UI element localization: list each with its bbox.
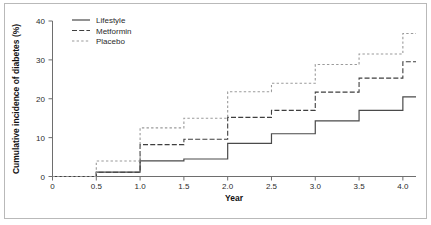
y-axis-tick-labels: 010203040 xyxy=(36,17,45,182)
legend-label-metformin: Metformin xyxy=(96,27,132,36)
x-tick-label: 2.5 xyxy=(266,182,278,191)
chart-legend: LifestyleMetforminPlacebo xyxy=(72,16,132,46)
x-tick-label: 3.0 xyxy=(310,182,322,191)
x-tick-label: 0 xyxy=(50,182,55,191)
y-axis-ticks xyxy=(49,21,53,177)
x-tick-label: 1.0 xyxy=(135,182,147,191)
x-axis-ticks xyxy=(53,177,403,181)
figure-container: 010203040 00.51.01.52.02.53.03.54.0 Year… xyxy=(0,0,431,225)
y-tick-label: 20 xyxy=(36,95,45,104)
y-axis-title: Cumulative incidence of diabetes (%) xyxy=(11,24,21,174)
x-tick-label: 1.5 xyxy=(178,182,190,191)
x-tick-label: 2.0 xyxy=(222,182,234,191)
x-tick-label: 4.0 xyxy=(397,182,409,191)
x-axis-title: Year xyxy=(225,193,244,203)
y-tick-label: 30 xyxy=(36,56,45,65)
y-tick-label: 40 xyxy=(36,17,45,26)
x-axis-tick-labels: 00.51.01.52.02.53.03.54.0 xyxy=(50,182,409,191)
x-tick-label: 0.5 xyxy=(91,182,103,191)
series-line-lifestyle xyxy=(53,97,417,177)
y-tick-label: 0 xyxy=(41,173,46,182)
y-tick-label: 10 xyxy=(36,134,45,143)
legend-label-lifestyle: Lifestyle xyxy=(96,16,126,25)
x-tick-label: 3.5 xyxy=(354,182,366,191)
series-line-placebo xyxy=(53,33,417,176)
series-line-metformin xyxy=(53,62,417,177)
series-group xyxy=(53,33,417,176)
legend-label-placebo: Placebo xyxy=(96,37,125,46)
chart-canvas: 010203040 00.51.01.52.02.53.03.54.0 Year… xyxy=(0,0,431,225)
